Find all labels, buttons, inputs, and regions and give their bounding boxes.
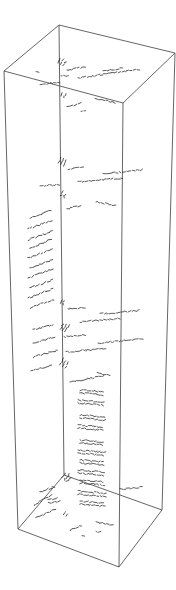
label-mark (28, 268, 54, 279)
label-mark (33, 350, 58, 358)
label-marks (28, 57, 143, 536)
label-mark (80, 500, 106, 507)
label-mark (60, 322, 70, 333)
box-edges (4, 25, 175, 567)
label-mark (36, 508, 56, 518)
label-mark (36, 72, 39, 73)
label-mark (70, 375, 104, 383)
label-mark (33, 324, 53, 331)
label-mark (80, 439, 104, 445)
label-mark (33, 336, 55, 343)
label-mark (67, 66, 86, 71)
label-mark (80, 459, 105, 466)
edge-vertical-left (4, 71, 18, 529)
label-mark (40, 486, 55, 493)
label-mark (100, 310, 139, 315)
label-mark (96, 531, 101, 532)
label-mark (82, 536, 85, 537)
edge-vertical-right (162, 53, 175, 510)
label-mark (59, 358, 69, 368)
figure-canvas (0, 0, 176, 590)
label-mark (30, 299, 54, 309)
label-mark (78, 424, 104, 431)
label-mark (80, 414, 106, 421)
label-mark (67, 102, 82, 107)
label-mark (31, 365, 52, 372)
label-mark (63, 512, 67, 517)
label-mark (64, 334, 86, 337)
label-mark (96, 201, 116, 206)
label-mark (70, 525, 82, 530)
label-mark (28, 230, 53, 240)
edge-bottom-back-left (18, 475, 64, 529)
label-mark (78, 469, 105, 476)
label-mark (30, 238, 52, 249)
label-mark (103, 67, 123, 71)
label-mark (78, 399, 105, 406)
edge-bottom-front-right (119, 510, 162, 567)
edge-top-right-back (59, 25, 175, 53)
label-mark (28, 220, 52, 230)
label-mark (30, 210, 51, 219)
edge-top-left-front (4, 71, 123, 103)
label-mark (81, 111, 86, 112)
label-mark (78, 449, 106, 456)
label-mark (40, 184, 60, 187)
label-mark (66, 348, 106, 353)
label-mark (68, 166, 84, 169)
label-mark (120, 486, 142, 489)
wireframe-box-figure (0, 0, 176, 590)
label-mark (28, 249, 53, 259)
label-mark (30, 259, 53, 268)
label-mark (30, 279, 53, 289)
label-mark (80, 389, 104, 396)
label-mark (80, 318, 120, 323)
label-mark (78, 490, 107, 497)
edge-bottom-left-front (18, 529, 119, 567)
edge-top-back-left (4, 25, 59, 71)
edge-bottom-right-back (64, 475, 162, 510)
label-mark (68, 307, 85, 310)
label-mark (57, 57, 67, 66)
edge-vertical-back (59, 25, 64, 475)
label-mark (67, 205, 81, 210)
label-mark (28, 288, 54, 299)
label-mark (95, 98, 116, 103)
label-mark (96, 521, 113, 525)
label-mark (57, 157, 66, 166)
label-mark (60, 92, 66, 98)
label-mark (60, 299, 65, 304)
label-mark (78, 177, 123, 182)
edge-top-front-right (123, 53, 175, 103)
label-mark (61, 75, 69, 76)
label-mark (48, 497, 60, 503)
